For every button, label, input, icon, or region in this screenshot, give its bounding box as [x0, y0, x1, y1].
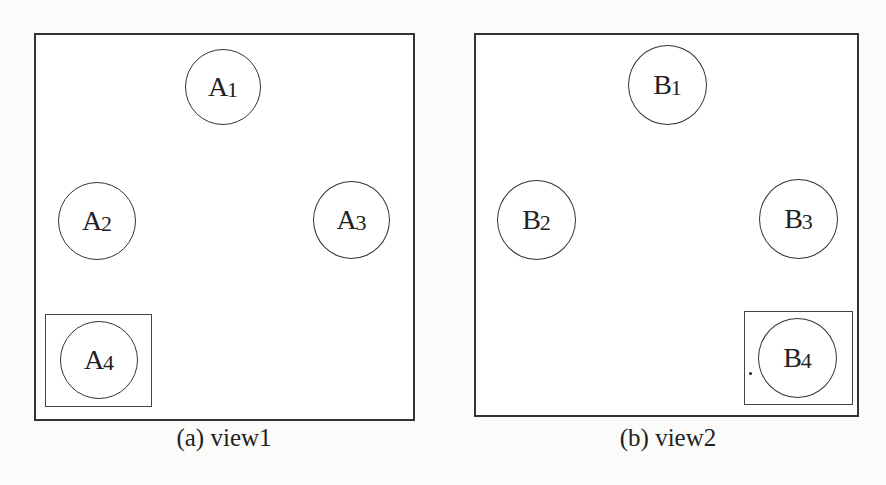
node-b4-index: 4: [801, 350, 812, 372]
node-a4: A4: [60, 321, 138, 399]
node-b1-index: 1: [671, 77, 682, 99]
node-b4: B4: [758, 318, 837, 398]
node-b2-letter: B: [522, 206, 540, 234]
marker-dot: [749, 372, 752, 375]
node-a3: A3: [313, 181, 390, 259]
node-b3: B3: [759, 179, 838, 259]
node-a3-index: 3: [356, 212, 367, 234]
node-b4-letter: B: [783, 344, 801, 372]
node-a1: A1: [185, 49, 261, 125]
node-b2-index: 2: [540, 212, 551, 234]
node-a1-index: 1: [227, 79, 238, 101]
node-b2: B2: [497, 180, 576, 260]
node-b3-index: 3: [802, 211, 813, 233]
node-a2-index: 2: [101, 213, 112, 235]
caption-view2: (b) view2: [518, 424, 818, 452]
node-b1-letter: B: [653, 71, 671, 99]
node-a4-index: 4: [103, 352, 114, 374]
node-b1: B1: [628, 45, 707, 125]
node-a3-letter: A: [336, 206, 355, 234]
caption-view1: (a) view1: [74, 424, 374, 452]
node-a2-letter: A: [82, 207, 101, 235]
node-a4-letter: A: [84, 346, 103, 374]
node-a1-letter: A: [208, 73, 227, 101]
node-b3-letter: B: [784, 205, 802, 233]
node-a2: A2: [58, 182, 136, 260]
